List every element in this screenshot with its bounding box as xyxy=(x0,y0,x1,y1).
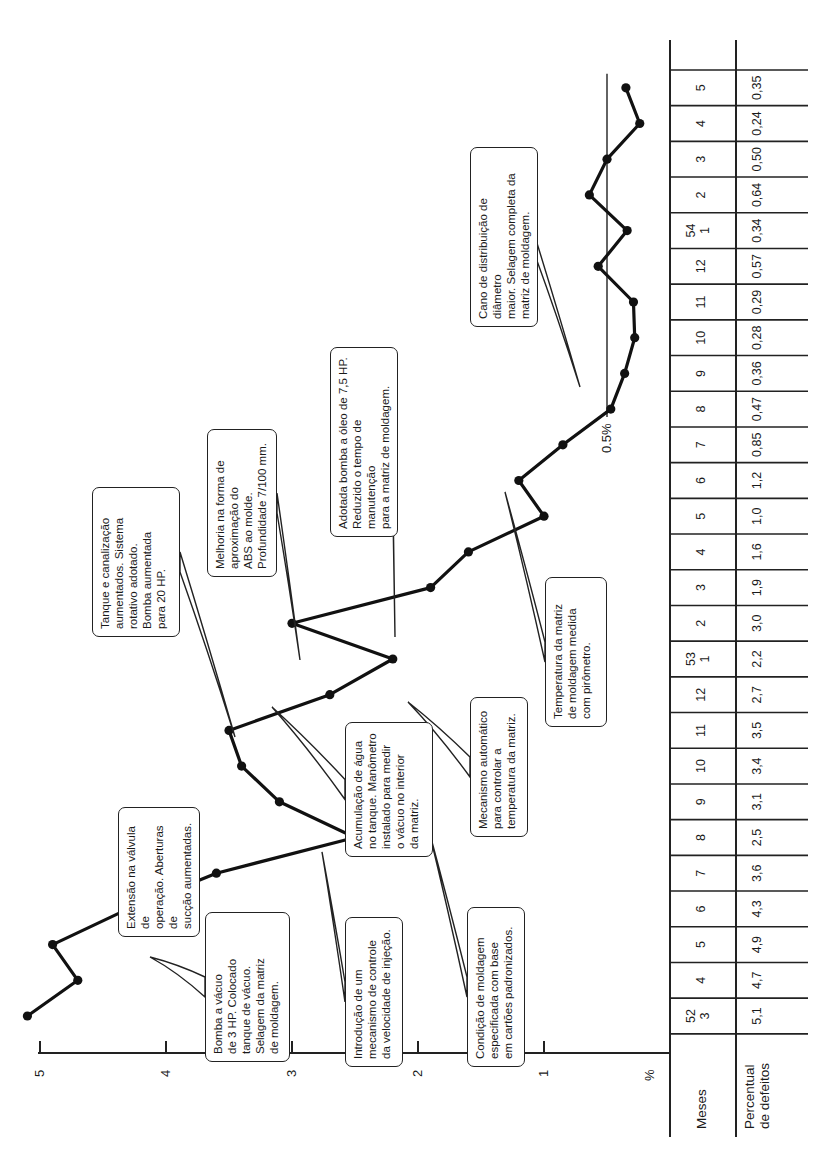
table-value-cell: 0,24 xyxy=(750,106,764,142)
reference-line-label: 0.5% xyxy=(599,423,614,453)
callout-tail xyxy=(180,552,235,737)
table-month-cell: 6 xyxy=(694,891,708,927)
callout-tail xyxy=(272,707,345,800)
callout-tail xyxy=(428,827,467,997)
table-month-cell: 5 xyxy=(694,498,708,534)
data-point xyxy=(621,83,630,92)
data-point xyxy=(464,547,473,556)
callout-mecanismo-temperatura: Mecanismo automático para controlar a te… xyxy=(470,697,528,837)
callout-melhoria-abs: Melhoria na forma de aproximação do ABS … xyxy=(207,429,277,577)
callout-bomba-3hp: Bomba a vácuo de 3 HP. Colocado tanque d… xyxy=(205,912,290,1062)
callout-tail xyxy=(532,227,580,387)
table-value-cell: 0,47 xyxy=(750,391,764,427)
data-point xyxy=(602,155,611,164)
axis-tick-label: 5 xyxy=(32,1070,47,1077)
data-point xyxy=(629,297,638,306)
table-month-cell: 11 xyxy=(694,713,708,749)
axis-tick-label: 2 xyxy=(410,1070,425,1077)
callout-extensao-valvula: Extensão na válvula de operação. Abertur… xyxy=(118,807,200,937)
table-value-cell: 1,6 xyxy=(750,534,764,570)
data-point xyxy=(539,512,548,521)
axis-unit-label: % xyxy=(642,1069,657,1081)
data-point xyxy=(275,797,284,806)
table-header-defect-rate: Percentual de defeitos xyxy=(742,1063,772,1129)
table-month-cell: 5 xyxy=(694,70,708,106)
table-month-cell: 9 xyxy=(694,356,708,392)
table-value-cell: 1,0 xyxy=(750,498,764,534)
table-value-cell: 3,0 xyxy=(750,605,764,641)
data-point xyxy=(620,369,629,378)
table-month-cell: 8 xyxy=(694,820,708,856)
data-point xyxy=(623,226,632,235)
table-value-cell: 0,36 xyxy=(750,356,764,392)
data-point xyxy=(325,690,334,699)
callout-tail xyxy=(277,493,300,660)
table-value-cell: 0,50 xyxy=(750,141,764,177)
data-point xyxy=(388,654,397,663)
table-header-months: Meses xyxy=(694,1089,709,1129)
table-month-cell: 9 xyxy=(694,784,708,820)
table-value-cell: 5,1 xyxy=(750,998,764,1034)
callout-temperatura-pirometro: Temperatura da matriz de moldagem medida… xyxy=(545,577,607,727)
table-value-cell: 0,64 xyxy=(750,177,764,213)
table-month-cell: 8 xyxy=(694,391,708,427)
data-point xyxy=(426,583,435,592)
axis-tick-label: 1 xyxy=(536,1070,551,1077)
data-point xyxy=(73,976,82,985)
table-value-cell: 0,57 xyxy=(750,248,764,284)
data-point xyxy=(594,262,603,271)
table-value-cell: 4,7 xyxy=(750,962,764,998)
table-month-cell: 10 xyxy=(694,320,708,356)
table-value-cell: 4,9 xyxy=(750,927,764,963)
table-month-cell: 4 xyxy=(694,106,708,142)
data-point xyxy=(558,440,567,449)
table-month-cell: 54 1 xyxy=(684,213,712,249)
table-month-cell: 3 xyxy=(694,570,708,606)
data-point xyxy=(630,333,639,342)
table-month-cell: 12 xyxy=(694,677,708,713)
callout-tanque-canalizacao: Tanque e canalização aumentados. Sistema… xyxy=(92,487,180,637)
data-point xyxy=(23,1011,32,1020)
table-month-cell: 2 xyxy=(694,177,708,213)
table-value-cell: 3,5 xyxy=(750,713,764,749)
table-month-cell: 11 xyxy=(694,284,708,320)
data-point xyxy=(48,940,57,949)
axis-tick-label: 3 xyxy=(284,1070,299,1077)
table-value-cell: 0,34 xyxy=(750,213,764,249)
table-month-cell: 7 xyxy=(694,855,708,891)
table-month-cell: 2 xyxy=(694,605,708,641)
table-month-cell: 4 xyxy=(694,534,708,570)
table-month-cell: 5 xyxy=(694,927,708,963)
rotated-chart-stage: 54321%MesesPercentual de defeitos52 35,1… xyxy=(0,0,828,1157)
axis-tick-label: 4 xyxy=(158,1070,173,1077)
data-point xyxy=(237,762,246,771)
table-month-cell: 4 xyxy=(694,962,708,998)
callout-bomba-oleo: Adotada bomba a óleo de 7,5 HP. Reduzido… xyxy=(330,347,398,537)
data-point xyxy=(635,119,644,128)
data-point xyxy=(585,190,594,199)
data-point xyxy=(212,869,221,878)
callout-condicao-moldagem: Condição de moldagem especificada com ba… xyxy=(467,907,525,1067)
table-value-cell: 1,9 xyxy=(750,570,764,606)
table-month-cell: 10 xyxy=(694,748,708,784)
table-month-cell: 6 xyxy=(694,463,708,499)
callout-controle-velocidade: Introdução de um mecanismo de controle d… xyxy=(345,917,403,1067)
table-month-cell: 3 xyxy=(694,141,708,177)
table-month-cell: 53 1 xyxy=(684,641,712,677)
table-value-cell: 0,29 xyxy=(750,284,764,320)
table-month-cell: 52 3 xyxy=(684,998,712,1034)
data-point xyxy=(514,476,523,485)
table-month-cell: 12 xyxy=(694,248,708,284)
table-value-cell: 3,6 xyxy=(750,855,764,891)
table-value-cell: 1,2 xyxy=(750,463,764,499)
table-value-cell: 0,28 xyxy=(750,320,764,356)
table-value-cell: 0,85 xyxy=(750,427,764,463)
table-value-cell: 2,7 xyxy=(750,677,764,713)
callout-acumulacao-agua: Acumulação de água no tanque. Manômetro … xyxy=(345,722,433,857)
callout-tail xyxy=(322,852,345,1002)
callout-tail xyxy=(150,957,205,997)
table-value-cell: 2,5 xyxy=(750,820,764,856)
table-value-cell: 2,2 xyxy=(750,641,764,677)
table-value-cell: 3,1 xyxy=(750,784,764,820)
table-value-cell: 4,3 xyxy=(750,891,764,927)
